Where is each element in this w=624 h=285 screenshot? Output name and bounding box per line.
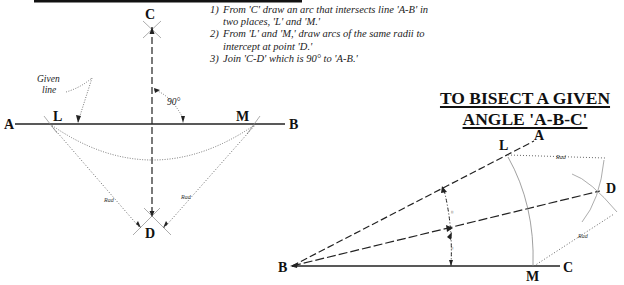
- step-number: 3): [210, 53, 223, 65]
- step-text: Join 'C-D' which is 90° to 'A-B.': [223, 53, 358, 65]
- title-line-1: TO BISECT A GIVEN: [440, 88, 610, 108]
- point-l-label: L: [499, 138, 508, 153]
- radius-label-right: Rad: [180, 194, 192, 200]
- line-b-d-bisector: [292, 191, 600, 266]
- equal-mark-lower: =: [449, 246, 455, 250]
- step-number: 2): [210, 28, 223, 52]
- radius-label-top: Rad: [555, 154, 567, 160]
- bisect-angle-construction: Rad Rad = = B C A L M D: [278, 128, 617, 284]
- point-b-label: B: [289, 117, 298, 132]
- point-a-label: A: [534, 128, 545, 143]
- instruction-step-1: 1) From 'C' draw an arc that intersects …: [210, 4, 430, 28]
- point-m-label: M: [526, 269, 539, 284]
- given-line-label-2: line: [42, 85, 56, 95]
- equal-mark-upper: =: [449, 210, 455, 214]
- step-text: From 'C' draw an arc that intersects lin…: [223, 4, 430, 28]
- title-line-2: ANGLE 'A-B-C': [463, 109, 588, 129]
- radius-label-bottom: Rad: [577, 233, 589, 239]
- point-a-label: A: [4, 117, 15, 132]
- line-b-a: [292, 141, 534, 266]
- point-c-label: C: [145, 7, 155, 22]
- angle-90-label: 90°: [167, 97, 181, 107]
- radius-label-left: Rad: [103, 197, 115, 203]
- point-m-label: M: [236, 109, 249, 124]
- point-l-label: L: [53, 109, 62, 124]
- arc-l-m: [508, 157, 533, 266]
- bisect-angle-title: TO BISECT A GIVEN ANGLE 'A-B-C': [420, 88, 624, 130]
- step-text: From 'L' and 'M,' draw arcs of the same …: [223, 28, 430, 52]
- point-d-label: D: [145, 226, 155, 241]
- given-line-label-1: Given: [37, 74, 60, 84]
- top-border-bar: [34, 0, 302, 3]
- point-d-label: D: [606, 181, 616, 196]
- instruction-step-2: 2) From 'L' and 'M,' draw arcs of the sa…: [210, 28, 430, 52]
- instruction-step-3: 3) Join 'C-D' which is 90° to 'A-B.': [210, 53, 430, 65]
- point-b-label: B: [278, 260, 287, 275]
- arc-l-m: [50, 124, 256, 160]
- step-number: 1): [210, 4, 223, 28]
- perpendicular-instructions: 1) From 'C' draw an arc that intersects …: [210, 4, 430, 65]
- point-c-label: C: [563, 260, 573, 275]
